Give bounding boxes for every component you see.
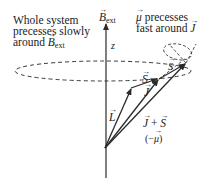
label-S-small-text: S [168,61,173,72]
mu-note-line-2: fast around J [136,23,195,34]
precession-ellipse [15,61,191,81]
label-neg-mu: (−μ) [145,133,162,144]
note-line-3: around Bext [13,37,90,51]
label-L-text: L [109,112,115,123]
axis-b-subscript: ext [106,16,116,25]
mu-precesses-note: μ precesses fast around J [136,12,195,34]
note-around-text: around [13,36,45,48]
sum-j: J [143,118,148,129]
b-field-subscript: ext [55,41,65,50]
j-symbol: J [190,23,195,34]
mu-precession-cone [159,44,196,79]
mu-note-text-2: fast around [136,22,190,34]
label-L: L [109,112,115,123]
neg-mu-open: (− [145,133,154,144]
axis-z-label: z [111,40,115,51]
label-J: J [144,87,149,98]
precession-diagram: Whole system precesses slowly around Bex… [0,0,205,181]
axis-b-symbol: B [99,12,106,23]
mu-symbol: μ [136,12,142,23]
label-J-text: J [144,87,149,98]
axis-b-ext-label: Bext [99,12,116,26]
label-S-small: S [168,61,173,72]
neg-mu-symbol: μ [154,133,159,144]
whole-system-note: Whole system precesses slowly around Bex… [13,15,90,51]
b-field-symbol: B [48,37,55,48]
